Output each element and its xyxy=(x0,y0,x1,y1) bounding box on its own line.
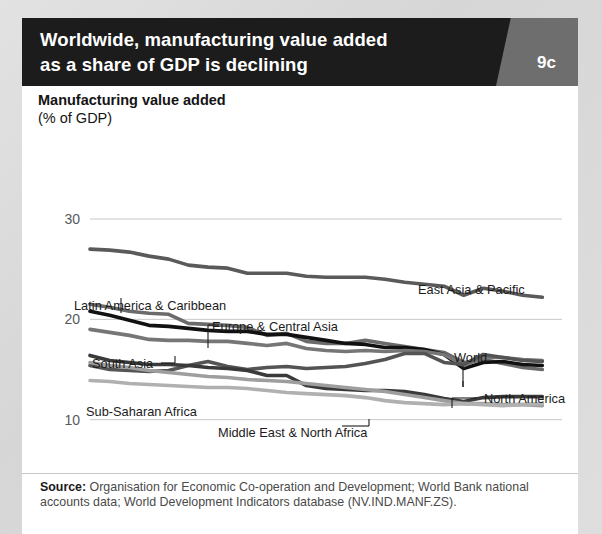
source-label: Source: xyxy=(40,480,86,494)
infographic-card: Worldwide, manufacturing value added as … xyxy=(0,0,602,534)
source-text: Organisation for Economic Co-operation a… xyxy=(40,480,529,509)
figure-header: Worldwide, manufacturing value added as … xyxy=(22,18,578,86)
series-label: World xyxy=(454,350,487,365)
figure-title-line1: Worldwide, manufacturing value added xyxy=(40,27,480,52)
series-label: Europe & Central Asia xyxy=(212,319,338,334)
source-note: Source: Organisation for Economic Co-ope… xyxy=(40,480,560,511)
y-axis-tick-label: 20 xyxy=(64,311,80,327)
figure-title-line2: as a share of GDP is declining xyxy=(40,52,480,77)
figure-number-label: 9c xyxy=(537,53,556,73)
series-label: Sub-Saharan Africa xyxy=(86,404,197,419)
figure-number-badge: 9c xyxy=(496,18,578,86)
series-label: North America xyxy=(484,391,565,406)
y-axis-tick-label: 30 xyxy=(64,211,80,227)
source-divider xyxy=(22,473,578,474)
chart-area: Manufacturing value added (% of GDP) 010… xyxy=(22,86,578,476)
series-label: South Asia xyxy=(92,356,153,371)
figure-title: Worldwide, manufacturing value added as … xyxy=(40,27,480,77)
series-label: Latin America & Caribbean xyxy=(74,298,226,313)
figure-card: Worldwide, manufacturing value added as … xyxy=(22,18,578,534)
series-label: East Asia & Pacific xyxy=(418,282,525,297)
y-axis-tick-label: 10 xyxy=(64,412,80,428)
series-label: Middle East & North Africa xyxy=(218,425,367,440)
